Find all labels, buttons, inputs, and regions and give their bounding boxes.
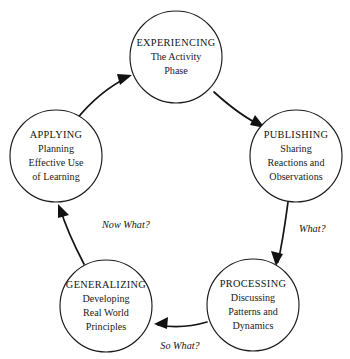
- node-circle-publishing: [250, 110, 342, 202]
- node-line-applying-3: of Learning: [32, 171, 79, 182]
- node-line-applying-1: Planning: [38, 143, 74, 154]
- arrowhead-applying: [58, 204, 69, 218]
- experiential-learning-cycle-diagram: EXPERIENCING The Activity Phase PUBLISHI…: [0, 0, 350, 359]
- node-line-publishing-3: Observations: [269, 171, 322, 182]
- edge-path-publishing-to-processing: [278, 202, 288, 262]
- node-line-publishing-1: Sharing: [280, 143, 311, 154]
- edge-label-now-what: Now What?: [101, 219, 151, 230]
- node-circle-processing: [207, 259, 299, 351]
- node-line-processing-2: Patterns and: [228, 306, 278, 317]
- node-line-generalizing-1: Developing: [82, 293, 129, 304]
- node-line-generalizing-2: Real World: [83, 307, 129, 318]
- edge-label-so-what: So What?: [160, 340, 200, 351]
- edge-generalizing-to-applying: [58, 204, 84, 264]
- node-circle-generalizing: [60, 260, 152, 352]
- node-title-publishing: PUBLISHING: [264, 129, 329, 140]
- node-line-generalizing-3: Principles: [86, 321, 126, 332]
- node-line-processing-1: Discussing: [231, 292, 275, 303]
- edge-label-what: What?: [299, 223, 327, 234]
- node-line-processing-3: Dynamics: [233, 320, 274, 331]
- node-line-experiencing-2: Phase: [164, 65, 188, 76]
- edge-processing-to-generalizing: [154, 317, 207, 329]
- edge-publishing-to-processing: [271, 202, 288, 266]
- cycle-diagram-canvas: EXPERIENCING The Activity Phase PUBLISHI…: [0, 0, 350, 359]
- node-title-experiencing: EXPERIENCING: [136, 37, 215, 48]
- edge-experiencing-to-publishing: [214, 92, 265, 128]
- node-line-applying-2: Effective Use: [28, 157, 84, 168]
- node-circle-applying: [10, 110, 102, 202]
- arrowhead-experiencing: [117, 74, 132, 85]
- node-line-publishing-2: Reactions and: [268, 157, 325, 168]
- node-line-experiencing-1: The Activity: [151, 51, 202, 62]
- arrowhead-generalizing: [154, 317, 168, 329]
- node-title-processing: PROCESSING: [220, 278, 287, 289]
- node-title-generalizing: GENERALIZING: [66, 279, 146, 290]
- node-title-applying: APPLYING: [30, 129, 83, 140]
- edge-applying-to-experiencing: [76, 74, 132, 120]
